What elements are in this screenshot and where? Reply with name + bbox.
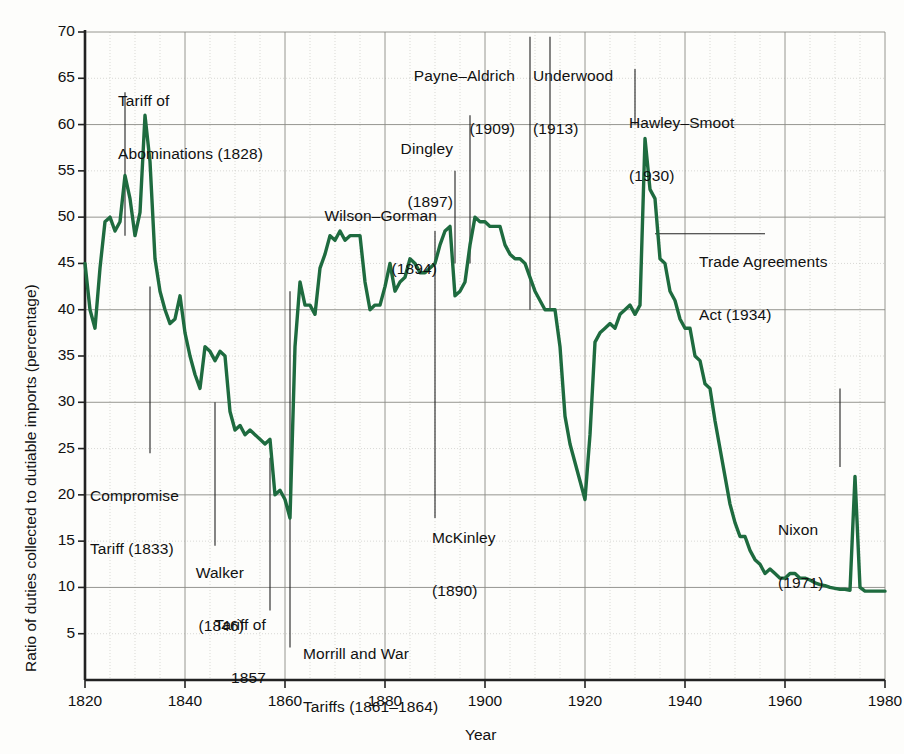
annotation-mckinley: McKinley (1890) xyxy=(432,494,496,634)
y-tick-label: 5 xyxy=(27,624,75,642)
y-tick-label: 60 xyxy=(27,115,75,133)
annotation-hawley-smoot: Hawley–Smoot (1930) xyxy=(629,79,734,219)
y-tick-label: 35 xyxy=(27,346,75,364)
x-axis-title: Year xyxy=(465,726,496,744)
y-tick-label: 45 xyxy=(27,253,75,271)
annotation-morrill-and-war-tariffs: Morrill and War Tariffs (1861–1864) xyxy=(303,610,438,750)
y-tick-label: 20 xyxy=(27,485,75,503)
y-tick-label: 30 xyxy=(27,392,75,410)
x-tick-label: 1840 xyxy=(160,692,210,710)
x-tick-label: 1920 xyxy=(560,692,610,710)
y-tick-label: 70 xyxy=(27,22,75,40)
annotation-underwood: Underwood (1913) xyxy=(533,32,613,172)
annotation-payne-aldrich: Payne–Aldrich (1909) xyxy=(370,32,515,172)
y-tick-label: 65 xyxy=(27,68,75,86)
y-tick-label: 15 xyxy=(27,531,75,549)
x-tick-label: 1960 xyxy=(760,692,810,710)
y-tick-label: 40 xyxy=(27,300,75,318)
x-tick-label: 1880 xyxy=(360,692,410,710)
y-tick-label: 10 xyxy=(27,577,75,595)
y-tick-label: 50 xyxy=(27,207,75,225)
y-tick-label: 55 xyxy=(27,161,75,179)
annotation-nixon: Nixon (1971) xyxy=(778,486,823,626)
y-tick-label: 25 xyxy=(27,439,75,457)
x-tick-label: 1820 xyxy=(60,692,110,710)
x-tick-label: 1940 xyxy=(660,692,710,710)
x-tick-label: 1860 xyxy=(260,692,310,710)
y-axis-title: Ratio of duties collected to dutiable im… xyxy=(22,284,40,672)
x-tick-label: 1980 xyxy=(860,692,904,710)
annotation-trade-agreements-act: Trade Agreements Act (1934) xyxy=(699,218,828,358)
x-tick-label: 1900 xyxy=(460,692,510,710)
chart-figure: Ratio of duties collected to dutiable im… xyxy=(0,0,904,754)
annotation-tariff-of-abominations: Tariff of Abominations (1828) xyxy=(118,57,263,197)
